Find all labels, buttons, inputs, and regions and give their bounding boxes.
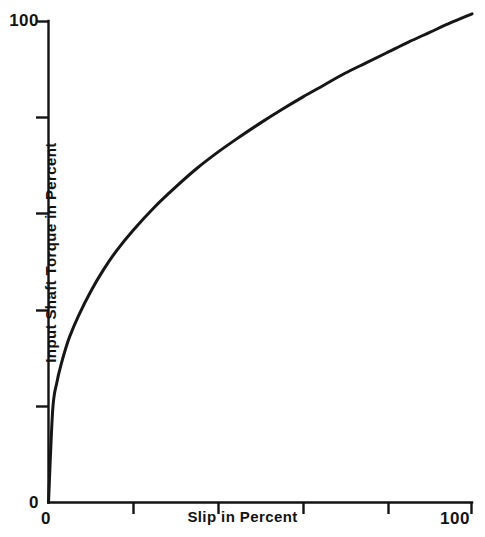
plot-canvas <box>0 0 485 537</box>
x-axis-title: Slip in Percent <box>0 509 485 524</box>
figure-container: 100 0 0 100 Slip in Percent Input Shaft … <box>0 0 485 537</box>
y-axis-title: Input Shaft Torque in Percent <box>43 108 58 398</box>
torque-slip-curve <box>49 14 473 503</box>
y-axis-max-label: 100 <box>1 12 39 29</box>
